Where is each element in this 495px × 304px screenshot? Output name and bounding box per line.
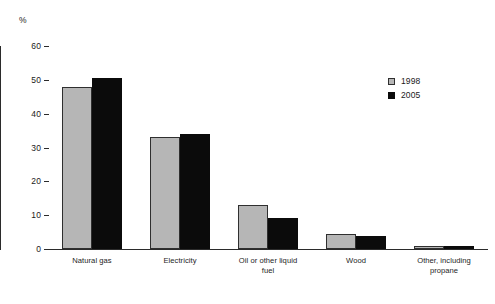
y-axis-unit-label: % <box>19 15 27 25</box>
y-axis-tick-label: 20 <box>0 177 41 186</box>
category-label-line: Electricity <box>136 256 224 266</box>
category-label-line: propane <box>400 266 488 276</box>
y-axis-tick-label: 40 <box>0 110 41 119</box>
category-label-1: Electricity <box>136 256 224 266</box>
legend-label-1998: 1998 <box>401 77 420 86</box>
y-axis-tick-label-text: 30 <box>3 144 41 153</box>
bar-1998-4 <box>414 246 444 249</box>
y-axis-tick-label: 50 <box>0 76 41 85</box>
legend-item-2005: 2005 <box>388 88 420 102</box>
category-label-line: Natural gas <box>48 256 136 266</box>
category-label-0: Natural gas <box>48 256 136 266</box>
category-label-line: Oil or other liquid <box>224 256 312 266</box>
y-axis-tick-label-text: 10 <box>3 211 41 220</box>
legend-swatch-1998 <box>388 78 395 85</box>
category-label-line: fuel <box>224 266 312 276</box>
bar-1998-2 <box>238 205 268 249</box>
y-axis-tick <box>44 249 49 250</box>
legend-item-1998: 1998 <box>388 74 420 88</box>
bar-1998-0 <box>62 87 92 249</box>
y-axis-tick-label: 10 <box>0 211 41 220</box>
x-axis-line <box>48 249 488 250</box>
bar-2005-1 <box>180 134 210 249</box>
y-axis-tick-label-text: 20 <box>3 177 41 186</box>
category-label-line: Wood <box>312 256 400 266</box>
bar-2005-0 <box>92 78 122 249</box>
bar-1998-1 <box>150 137 180 249</box>
category-label-line: Other, including <box>400 256 488 266</box>
bar-2005-3 <box>356 236 386 249</box>
category-label-2: Oil or other liquidfuel <box>224 256 312 275</box>
y-axis-tick-label-text: 0 <box>3 245 41 254</box>
bar-2005-4 <box>444 246 474 249</box>
legend: 19982005 <box>388 74 420 102</box>
y-axis-tick-label: 0 <box>0 245 41 254</box>
bar-2005-2 <box>268 218 298 249</box>
y-axis-tick-label: 30 <box>0 144 41 153</box>
bar-1998-3 <box>326 234 356 249</box>
category-label-4: Other, includingpropane <box>400 256 488 275</box>
legend-swatch-2005 <box>388 92 395 99</box>
y-axis-tick-label-text: 60 <box>3 42 41 51</box>
bar-chart: % 0102030405060 Natural gasElectricityOi… <box>0 0 495 304</box>
legend-label-2005: 2005 <box>401 91 420 100</box>
y-axis-tick-label-text: 50 <box>3 76 41 85</box>
y-axis-tick-label-text: 40 <box>3 110 41 119</box>
category-label-3: Wood <box>312 256 400 266</box>
plot-area <box>48 46 488 249</box>
y-axis-tick-label: 60 <box>0 42 41 51</box>
